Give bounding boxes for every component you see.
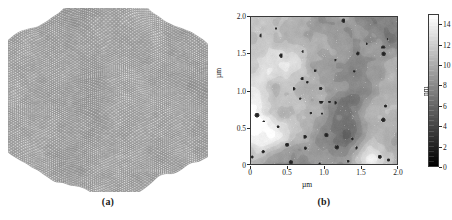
surface-3d-render: [8, 8, 208, 192]
y-tick-label-0: 0: [242, 161, 246, 170]
colorbar-tickmark-12: [439, 45, 442, 46]
height-map-frame: [250, 16, 398, 165]
colorbar-tickmark-0: [439, 167, 442, 168]
surface-3d-canvas: [8, 8, 208, 192]
colorbar-tick-label-6: 6: [443, 101, 447, 110]
x-tick-label-0: 0: [248, 168, 252, 177]
height-map-canvas: [251, 17, 397, 164]
colorbar-tick-label-12: 12: [443, 40, 451, 49]
y-tick-label-0-5: 0.5: [237, 123, 246, 132]
x-tick-label-1-5: 1.5: [356, 168, 365, 177]
colorbar-tick-label-14: 14: [443, 20, 451, 29]
colorbar-tick-label-0: 0: [443, 163, 447, 172]
panel-b-caption: (b): [216, 196, 432, 207]
y-tick-label-1-0: 1.0: [237, 86, 246, 95]
x-tick-label-0-5: 0.5: [282, 168, 291, 177]
colorbar: 02468101214 nm: [412, 14, 452, 167]
colorbar-tick-label-4: 4: [443, 122, 447, 131]
colorbar-tickmark-6: [439, 106, 442, 107]
x-axis-tickmarks: [250, 165, 398, 169]
colorbar-tickmark-4: [439, 126, 442, 127]
colorbar-unit-label: nm: [421, 86, 430, 96]
colorbar-tickmark-10: [439, 65, 442, 66]
surface-3d-canvas-holder: [8, 8, 208, 192]
colorbar-tick-label-8: 8: [443, 81, 447, 90]
y-axis-ticks: 2.0 1.5 1.0 0.5 0: [226, 16, 246, 165]
panel-a-caption: (a): [0, 196, 216, 207]
x-axis-ticks: 0 0.5 1.0 1.5 2.0: [250, 168, 398, 180]
colorbar-tick-label-2: 2: [443, 142, 447, 151]
colorbar-tick-label-10: 10: [443, 61, 451, 70]
colorbar-canvas: [429, 15, 438, 166]
panel-a: (a): [0, 0, 216, 220]
x-axis-label-wrap: µm: [216, 180, 432, 189]
y-tick-label-1-5: 1.5: [237, 49, 246, 58]
colorbar-tickmark-14: [439, 24, 442, 25]
x-tick-label-2-0: 2.0: [393, 168, 402, 177]
y-axis-label: µm: [214, 68, 223, 78]
y-axis-tickmarks: [247, 16, 251, 165]
x-axis-label: µm: [302, 180, 312, 189]
x-tick-label-1-0: 1.0: [319, 168, 328, 177]
colorbar-tickmark-8: [439, 85, 442, 86]
colorbar-tickmark-2: [439, 147, 442, 148]
y-tick-label-2-0: 2.0: [237, 12, 246, 21]
panel-b: 2.0 1.5 1.0 0.5 0 µm 0 0.5 1.0 1.5 2.0: [216, 0, 432, 220]
